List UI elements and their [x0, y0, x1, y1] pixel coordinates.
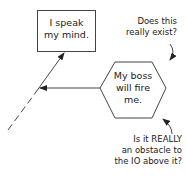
upward-arrow-to-io: [36, 53, 64, 92]
existence-question: Does this really exist?: [115, 16, 177, 38]
obstacle-annotation-arrow: [163, 119, 172, 134]
obstacle-node-label: My boss will fire me.: [106, 70, 160, 106]
upward-dashed-line: [8, 92, 36, 130]
existence-annotation-arrow: [170, 44, 173, 60]
obstacle-question: Is it REALLY an obstacle to the IO above…: [100, 134, 182, 167]
io-node-label: I speak my mind.: [37, 17, 96, 41]
